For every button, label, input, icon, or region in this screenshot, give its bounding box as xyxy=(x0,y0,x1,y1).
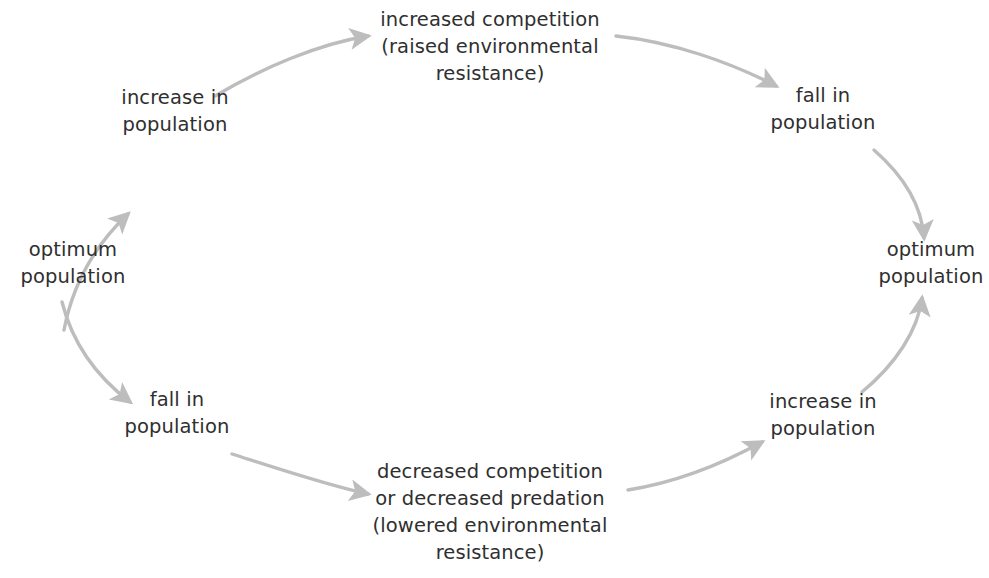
node-line: (lowered environmental xyxy=(350,512,630,539)
node-line: or decreased predation xyxy=(350,485,630,512)
node-line: resistance) xyxy=(355,60,625,87)
node-decreased-competition: decreased competition or decreased preda… xyxy=(350,458,630,566)
node-optimum-population-left: optimum population xyxy=(8,236,138,290)
node-line: population xyxy=(112,413,242,440)
arrow-increase-to-optimum-right xyxy=(862,298,922,392)
arrow-fall-to-decreased-competition xyxy=(232,454,368,494)
node-increase-in-population-top-left: increase in population xyxy=(110,84,240,138)
arrow-decreased-competition-to-increase xyxy=(628,442,762,490)
node-optimum-population-right: optimum population xyxy=(866,236,989,290)
node-line: optimum xyxy=(866,236,989,263)
arrow-increased-competition-to-fall xyxy=(616,36,776,86)
node-line: optimum xyxy=(8,236,138,263)
node-increased-competition: increased competition (raised environmen… xyxy=(355,6,625,87)
node-fall-in-population-bottom-left: fall in population xyxy=(112,386,242,440)
node-line: resistance) xyxy=(350,539,630,566)
node-line: population xyxy=(866,263,989,290)
node-line: fall in xyxy=(758,82,888,109)
node-line: increase in xyxy=(110,84,240,111)
node-line: population xyxy=(110,111,240,138)
node-line: increased competition xyxy=(355,6,625,33)
node-increase-in-population-bottom-right: increase in population xyxy=(758,388,888,442)
node-line: population xyxy=(758,415,888,442)
population-cycle-diagram: optimum population increase in populatio… xyxy=(0,0,989,578)
node-line: population xyxy=(758,109,888,136)
arrow-fall-to-optimum-right xyxy=(874,150,924,238)
node-line: population xyxy=(8,263,138,290)
node-fall-in-population-top-right: fall in population xyxy=(758,82,888,136)
node-line: (raised environmental xyxy=(355,33,625,60)
node-line: decreased competition xyxy=(350,458,630,485)
node-line: fall in xyxy=(112,386,242,413)
node-line: increase in xyxy=(758,388,888,415)
